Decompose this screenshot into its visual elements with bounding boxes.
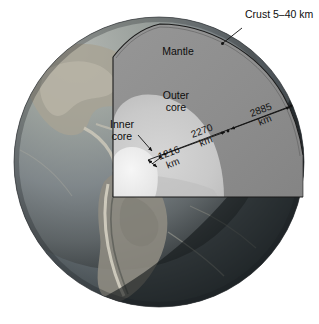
outer-core-label-line2: core xyxy=(166,101,187,113)
outer-core-boundary-dot xyxy=(227,130,230,133)
surface-boundary-dot xyxy=(290,105,293,108)
inner-core-label-line2: core xyxy=(112,130,133,142)
outer-core-label-line1: Outer xyxy=(163,89,190,101)
crust-label: Crust 5–40 km xyxy=(245,8,314,20)
inner-core-label-line1: Inner xyxy=(110,118,134,130)
cutaway-wedge xyxy=(113,24,303,197)
diagram-canvas: Crust 5–40 km Mantle Outer core Inner co… xyxy=(0,0,319,324)
crust-leader-dot xyxy=(221,42,224,45)
mantle-label: Mantle xyxy=(162,45,194,57)
earth-cutaway-figure: Crust 5–40 km Mantle Outer core Inner co… xyxy=(0,0,319,324)
